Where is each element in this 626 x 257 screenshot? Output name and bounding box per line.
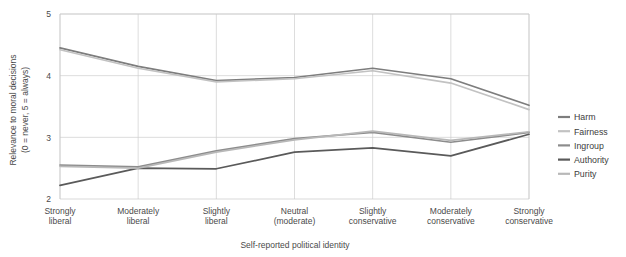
chart-figure: 2345 StronglyliberalModeratelyliberalSli… <box>0 0 626 257</box>
line-chart: 2345 StronglyliberalModeratelyliberalSli… <box>0 0 626 257</box>
y-tick-label-4: 4 <box>46 71 51 81</box>
x-tick-label-5-line2: conservative <box>427 216 475 226</box>
legend-label-fairness: Fairness <box>574 127 608 137</box>
x-tick-label-1-line2: liberal <box>127 216 150 226</box>
y-tick-label-2: 2 <box>46 194 51 204</box>
legend-label-purity: Purity <box>574 169 597 179</box>
x-tick-label-3-line1: Neutral <box>281 206 309 216</box>
x-tick-label-0-line1: Strongly <box>44 206 76 216</box>
y-tick-label-5: 5 <box>46 9 51 19</box>
legend-label-ingroup: Ingroup <box>574 141 604 151</box>
y-axis-title-line2: (0 = never, 5 = always) <box>20 67 30 153</box>
legend-label-harm: Harm <box>574 112 596 122</box>
y-tick-label-3: 3 <box>46 133 51 143</box>
x-tick-label-6-line2: conservative <box>505 216 553 226</box>
x-tick-label-1-line1: Moderately <box>117 206 160 216</box>
legend-label-authority: Authority <box>574 155 609 165</box>
x-tick-label-3-line2: (moderate) <box>274 216 316 226</box>
x-tick-label-0-line2: liberal <box>49 216 72 226</box>
x-tick-label-4-line1: Slightly <box>359 206 387 216</box>
x-tick-label-6-line1: Strongly <box>513 206 545 216</box>
x-tick-label-4-line2: conservative <box>349 216 397 226</box>
x-tick-label-5-line1: Moderately <box>430 206 473 216</box>
x-axis-title: Self-reported political identity <box>240 240 350 250</box>
x-tick-label-2-line1: Slightly <box>203 206 231 216</box>
y-axis-title-line1: Relevance to moral decisions <box>8 54 18 165</box>
x-tick-label-2-line2: liberal <box>205 216 228 226</box>
